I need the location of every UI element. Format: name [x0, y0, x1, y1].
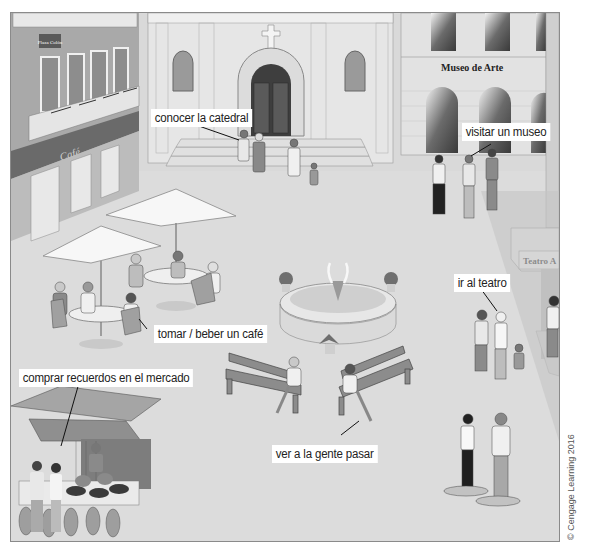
label-tomar-beber-un-cafe: tomar / beber un café: [154, 325, 267, 343]
svg-text:Plaza Colón: Plaza Colón: [38, 40, 63, 45]
illustration-frame: Plaza Colón Café: [10, 12, 560, 542]
label-comprar-recuerdos: comprar recuerdos en el mercado: [19, 369, 193, 387]
cathedral: [148, 13, 393, 166]
copyright-credit: © Cengage Learning 2016: [566, 434, 576, 540]
label-conocer-la-catedral: conocer la catedral: [151, 109, 252, 127]
label-ir-al-teatro: ir al teatro: [454, 274, 510, 292]
svg-text:Museo de Arte: Museo de Arte: [441, 62, 504, 73]
label-visitar-un-museo: visitar un museo: [462, 123, 550, 141]
label-ver-a-la-gente-pasar: ver a la gente pasar: [272, 445, 377, 463]
